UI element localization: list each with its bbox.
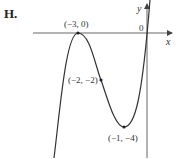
label-neg1-neg4: (−1, −4) (108, 133, 138, 143)
label-neg2-neg2: (−2, −2) (68, 75, 98, 85)
y-axis-label: y (136, 3, 142, 14)
origin-label: 0 (139, 23, 144, 33)
label-neg3-0: (−3, 0) (64, 19, 89, 29)
cubic-graph: x y 0 (−3, 0) (−2, −2) (−1, −4) (0, 0, 180, 159)
point-neg1-neg4 (122, 125, 125, 128)
point-neg2-neg2 (99, 78, 102, 81)
point-neg3-0 (76, 31, 79, 34)
x-axis-label: x (165, 36, 171, 47)
